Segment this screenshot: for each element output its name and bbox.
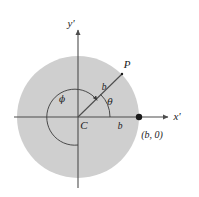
diagram-canvas: y' x' C P b b θ ϕ (b, 0) — [0, 0, 199, 197]
theta-label: θ — [107, 97, 113, 107]
x-axis-label: x' — [172, 110, 181, 122]
point-p-label: P — [123, 58, 131, 70]
point-p-marker — [121, 73, 123, 75]
radius-label-b-cp: b — [102, 82, 107, 92]
y-axis-label: y' — [66, 17, 75, 29]
center-label-c: C — [80, 119, 88, 131]
polar-disk-diagram: y' x' C P b b θ ϕ (b, 0) — [0, 0, 199, 197]
radius-label-b-axis: b — [118, 121, 123, 131]
boundary-point-label: (b, 0) — [141, 129, 163, 141]
phi-label: ϕ — [59, 94, 65, 104]
point-b-zero-marker — [136, 114, 142, 120]
